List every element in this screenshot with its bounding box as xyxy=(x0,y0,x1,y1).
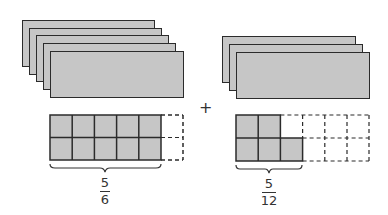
plus-operator: + xyxy=(199,100,212,116)
left-grid xyxy=(50,115,183,172)
right-brace xyxy=(236,165,302,173)
left-brace xyxy=(50,164,161,172)
left-fraction: 5 6 xyxy=(95,176,115,207)
left-numerator: 5 xyxy=(101,175,109,190)
left-denominator: 6 xyxy=(101,192,109,207)
grid-diagrams xyxy=(0,0,388,215)
right-fraction: 5 12 xyxy=(257,177,281,208)
right-denominator: 12 xyxy=(261,193,278,208)
right-grid xyxy=(236,115,369,173)
right-numerator: 5 xyxy=(265,176,273,191)
